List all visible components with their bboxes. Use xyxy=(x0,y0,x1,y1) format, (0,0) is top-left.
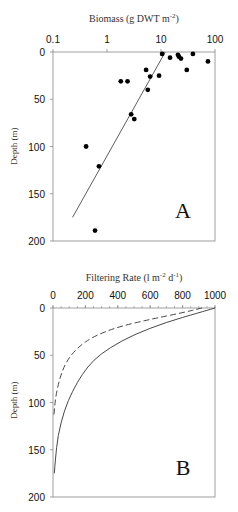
panel-b-y-label: Depth (m) xyxy=(9,381,19,418)
panel-a-label: A xyxy=(175,198,191,223)
x-tick-label: 400 xyxy=(109,290,126,301)
y-tick-label: 0 xyxy=(39,47,45,58)
panel-a-points xyxy=(84,51,211,233)
data-point xyxy=(148,74,153,79)
panel-a-title: Biomass (g DWT m-2) xyxy=(89,12,179,25)
y-tick-label: 50 xyxy=(34,350,46,361)
data-point xyxy=(125,79,130,84)
panel-b-curves xyxy=(54,308,215,473)
data-point xyxy=(129,112,134,117)
x-tick-label: 0.1 xyxy=(46,34,60,45)
panel-a-x-ticks: 0.1110100 xyxy=(46,34,224,52)
panel-b-label: B xyxy=(176,455,191,480)
data-point xyxy=(144,68,149,73)
x-tick-label: 600 xyxy=(142,290,159,301)
panel-b-title: Filtering Rate (l m-2 d-1) xyxy=(86,271,183,284)
panel-b-plot-frame xyxy=(53,308,215,497)
y-tick-label: 50 xyxy=(34,94,46,105)
data-point xyxy=(84,144,89,149)
y-tick-label: 0 xyxy=(39,303,45,314)
data-point xyxy=(191,51,196,56)
panel-b-y-ticks: 050100150200 xyxy=(28,303,53,503)
data-point xyxy=(118,79,123,84)
x-tick-label: 1000 xyxy=(204,290,227,301)
panel-a-y-ticks: 050100150200 xyxy=(28,47,53,247)
panel-b: Filtering Rate (l m-2 d-1) 0200400600800… xyxy=(9,271,227,503)
data-point xyxy=(157,73,162,78)
y-tick-label: 100 xyxy=(28,142,45,153)
data-point xyxy=(160,51,165,56)
y-tick-label: 200 xyxy=(28,236,45,247)
x-tick-label: 0 xyxy=(50,290,56,301)
data-point xyxy=(179,56,184,61)
dashed-curve xyxy=(54,308,202,417)
data-point xyxy=(168,55,173,60)
x-tick-label: 100 xyxy=(207,34,224,45)
chart-figure: Biomass (g DWT m-2) 0.1110100 0501001502… xyxy=(0,0,238,512)
panel-a-y-label: Depth (m) xyxy=(9,127,19,164)
data-point xyxy=(206,59,211,64)
data-point xyxy=(97,164,102,169)
panel-b-x-ticks: 02004006008001000 xyxy=(50,290,226,308)
data-point xyxy=(132,117,137,122)
x-tick-label: 200 xyxy=(77,290,94,301)
data-point xyxy=(93,228,98,233)
data-point xyxy=(145,87,150,92)
x-tick-label: 1 xyxy=(104,34,110,45)
x-tick-label: 800 xyxy=(174,290,191,301)
y-tick-label: 100 xyxy=(28,398,45,409)
panel-a: Biomass (g DWT m-2) 0.1110100 0501001502… xyxy=(9,12,224,247)
y-tick-label: 150 xyxy=(28,445,45,456)
data-point xyxy=(184,68,189,73)
y-tick-label: 150 xyxy=(28,189,45,200)
y-tick-label: 200 xyxy=(28,492,45,503)
solid-curve xyxy=(54,308,215,473)
x-tick-label: 10 xyxy=(155,34,167,45)
